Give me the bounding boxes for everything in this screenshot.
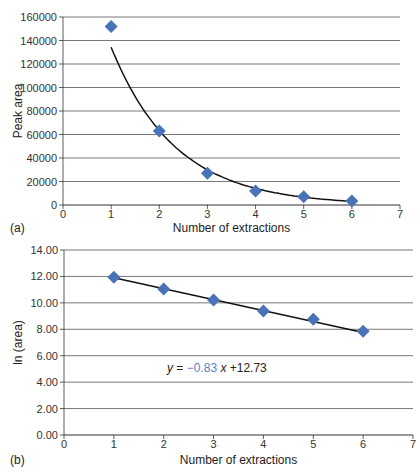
y-tick-label: 6.00 <box>37 350 58 362</box>
x-tick-label: 7 <box>397 208 403 220</box>
y-tick-label: 0 <box>51 199 57 211</box>
y-tick-label: 2.00 <box>37 403 58 415</box>
x-tick-label: 4 <box>253 208 259 220</box>
x-axis-title: Number of extractions <box>180 453 297 467</box>
y-tick-label: 80000 <box>26 105 57 117</box>
y-tick-label: 140000 <box>20 35 57 47</box>
y-tick-label: 10.00 <box>30 297 58 309</box>
y-tick-label: 40000 <box>26 152 57 164</box>
y-tick-label: 60000 <box>26 129 57 141</box>
panel-label: (b) <box>10 453 25 467</box>
data-point-marker <box>107 271 120 284</box>
data-point-marker <box>207 294 220 307</box>
y-tick-label: 100000 <box>20 82 57 94</box>
y-tick-label: 0.00 <box>37 429 58 441</box>
x-tick-label: 1 <box>111 438 117 450</box>
data-point-marker <box>157 282 170 295</box>
data-point-marker <box>357 325 370 338</box>
y-tick-label: 14.00 <box>30 244 58 256</box>
y-tick-label: 4.00 <box>37 376 58 388</box>
data-point-marker <box>201 167 214 180</box>
data-point-marker <box>307 313 320 326</box>
x-tick-label: 5 <box>301 208 307 220</box>
chart-a: 0200004000060000800001000001200001400001… <box>10 11 403 235</box>
y-tick-label: 20000 <box>26 176 57 188</box>
data-point-marker <box>105 20 118 33</box>
x-tick-label: 3 <box>204 208 210 220</box>
trendline <box>111 47 352 201</box>
x-tick-label: 2 <box>161 438 167 450</box>
trendline-equation: y = −0.83 x +12.73 <box>166 361 267 375</box>
y-tick-label: 8.00 <box>37 323 58 335</box>
x-axis-title: Number of extractions <box>173 221 290 235</box>
x-tick-label: 7 <box>410 438 416 450</box>
data-point-marker <box>297 190 310 203</box>
equation-slope: −0.83 <box>187 361 218 375</box>
x-tick-label: 5 <box>310 438 316 450</box>
y-axis-title: ln (area) <box>11 320 25 365</box>
x-tick-label: 4 <box>260 438 266 450</box>
data-point-marker <box>257 304 270 317</box>
trendline <box>114 278 363 333</box>
panel-label: (a) <box>10 221 25 235</box>
x-tick-label: 6 <box>349 208 355 220</box>
x-tick-label: 0 <box>61 438 67 450</box>
x-tick-label: 1 <box>108 208 114 220</box>
x-tick-label: 0 <box>60 208 66 220</box>
x-tick-label: 3 <box>211 438 217 450</box>
equation-intercept: +12.73 <box>226 361 267 375</box>
x-tick-label: 6 <box>360 438 366 450</box>
chart-b: 0.002.004.006.008.0010.0012.0014.0001234… <box>10 244 416 467</box>
y-axis-title: Peak area <box>11 83 25 138</box>
y-tick-label: 120000 <box>20 58 57 70</box>
y-tick-label: 160000 <box>20 11 57 23</box>
x-tick-label: 2 <box>156 208 162 220</box>
figure: 0200004000060000800001000001200001400001… <box>0 0 420 475</box>
equation-equals: = <box>173 361 187 375</box>
y-tick-label: 12.00 <box>30 270 58 282</box>
data-point-marker <box>249 184 262 197</box>
